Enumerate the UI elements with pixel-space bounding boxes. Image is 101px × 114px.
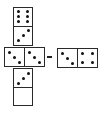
domino-top-half-six: [14, 8, 32, 26]
pip: [17, 39, 20, 42]
domino-bottom-half-blank: [14, 87, 32, 106]
pip: [38, 61, 41, 64]
pip: [13, 56, 16, 59]
pip: [27, 29, 30, 32]
pip: [61, 52, 64, 55]
pip: [28, 51, 31, 54]
pip: [26, 15, 29, 18]
domino-option-half-four: [77, 49, 97, 67]
pip: [81, 61, 84, 64]
domino-option: [57, 48, 98, 68]
pip: [26, 10, 29, 13]
pip: [17, 10, 20, 13]
pip: [22, 34, 25, 37]
domino-middle: [4, 47, 45, 67]
domino-top-half-three: [14, 26, 32, 45]
pip: [18, 61, 21, 64]
pip: [27, 72, 30, 75]
pip: [17, 15, 20, 18]
pip: [66, 57, 69, 60]
pip: [26, 20, 29, 23]
pip: [17, 20, 20, 23]
pip: [22, 77, 25, 80]
pip: [81, 52, 84, 55]
pip: [17, 82, 20, 85]
pip: [33, 56, 36, 59]
domino-bottom-half-three: [14, 69, 32, 87]
pip: [8, 51, 11, 54]
domino-option-half-three: [58, 49, 77, 67]
pip: [91, 52, 94, 55]
domino-middle-half-right-three: [24, 48, 44, 66]
pip: [91, 61, 94, 64]
domino-middle-half-left-three: [5, 48, 24, 66]
pip: [71, 62, 74, 65]
arrow-left-icon: [47, 56, 52, 58]
domino-top: [13, 7, 33, 46]
domino-bottom: [13, 68, 33, 106]
